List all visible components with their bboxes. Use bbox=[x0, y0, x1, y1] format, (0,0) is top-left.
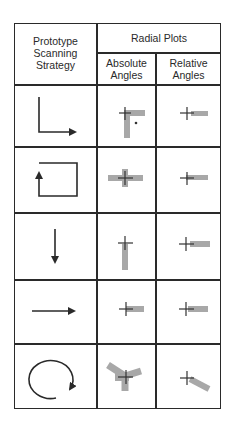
radial-plot-relative-row5-icon bbox=[180, 371, 209, 389]
l-shape-right-arrow-icon bbox=[39, 97, 75, 132]
radial-plot-relative-row1-icon bbox=[180, 107, 208, 120]
table-graphics bbox=[0, 0, 232, 432]
radial-plot-relative-row3-icon bbox=[179, 237, 210, 251]
radial-plot-absolute-row5-icon bbox=[108, 365, 141, 391]
radial-plot-absolute-row2-icon bbox=[108, 169, 143, 187]
radial-plot-relative-row4-icon bbox=[179, 302, 208, 316]
radial-plot-absolute-row3-icon bbox=[118, 236, 133, 270]
rectangle-loop-up-arrow-icon bbox=[39, 163, 77, 196]
radial-plot-absolute-row4-icon bbox=[119, 302, 144, 316]
circular-clockwise-arrow-icon bbox=[29, 361, 73, 399]
radial-plot-absolute-row1-icon bbox=[119, 107, 145, 138]
radial-plot-relative-row2-icon bbox=[180, 172, 208, 185]
